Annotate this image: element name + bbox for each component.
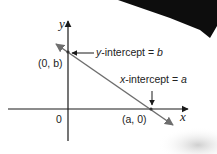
y-intercept-point bbox=[66, 50, 69, 53]
smudge-decoration bbox=[158, 127, 217, 154]
brush-stroke-decoration bbox=[118, 0, 217, 38]
x-axis-label: x bbox=[180, 110, 186, 123]
y-intercept-point-label: (0, b) bbox=[38, 58, 63, 69]
x-intercept-point bbox=[149, 107, 152, 110]
y-intercept-annotation: y-intercept = b bbox=[96, 47, 163, 58]
x-intercept-annotation-value: a bbox=[181, 73, 187, 85]
x-intercept-annotation-text: -intercept = bbox=[125, 73, 181, 85]
x-intercept-annotation: x-intercept = a bbox=[120, 74, 187, 85]
y-axis-label: y bbox=[59, 17, 65, 30]
x-intercept-point-label: (a, 0) bbox=[122, 114, 147, 125]
y-intercept-annotation-text: -intercept = bbox=[101, 46, 157, 58]
origin-label: 0 bbox=[56, 114, 62, 125]
y-intercept-annotation-value: b bbox=[157, 46, 163, 58]
